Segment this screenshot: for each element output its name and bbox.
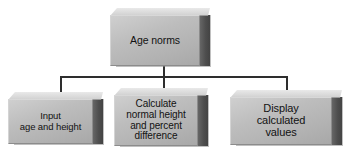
- node-label: Calculate normal height and percent diff…: [124, 99, 187, 142]
- connector-drop-display: [286, 76, 288, 91]
- node-side-face: [199, 15, 210, 66]
- node-age-norms[interactable]: Age norms: [110, 8, 210, 66]
- node-front-face: Calculate normal height and percent diff…: [114, 95, 198, 146]
- node-label: Display calculated values: [255, 103, 308, 139]
- node-input-age-and-height[interactable]: Input age and height: [8, 92, 103, 144]
- node-calculate-normal-height[interactable]: Calculate normal height and percent diff…: [114, 88, 208, 146]
- node-side-face: [331, 97, 342, 145]
- node-display-calculated-values[interactable]: Display calculated values: [230, 90, 342, 145]
- node-label: Age norms: [128, 35, 182, 46]
- node-side-face: [197, 95, 208, 146]
- node-label: Input age and height: [18, 111, 83, 132]
- flowchart-diagram: Age norms Input age and height Calculate…: [0, 0, 352, 155]
- node-side-face: [92, 99, 103, 144]
- node-front-face: Age norms: [110, 15, 200, 66]
- node-front-face: Display calculated values: [230, 97, 332, 145]
- connector-horizontal-bus: [60, 76, 288, 78]
- node-front-face: Input age and height: [8, 99, 93, 144]
- connector-drop-input: [60, 76, 62, 93]
